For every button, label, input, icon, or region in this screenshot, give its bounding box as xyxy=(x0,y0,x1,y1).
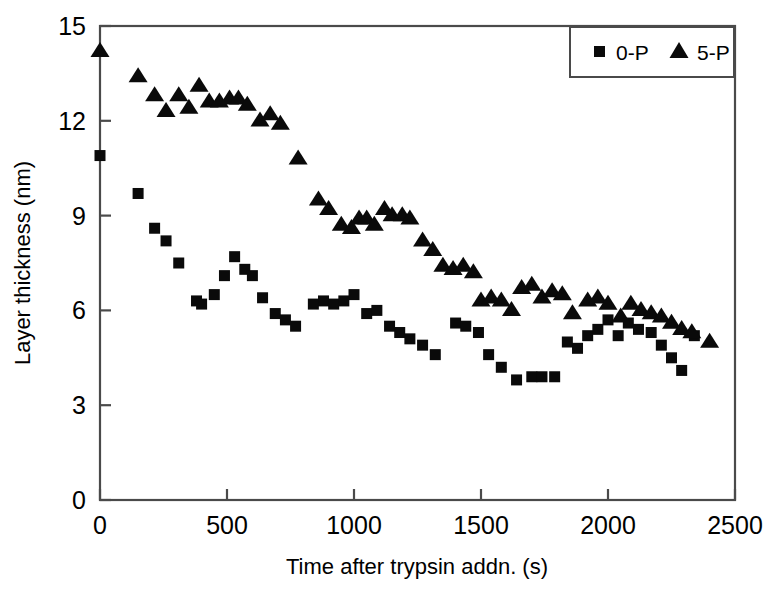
data-point-0-P-47 xyxy=(666,352,677,363)
data-point-5-P-6 xyxy=(190,77,209,92)
data-point-0-P-14 xyxy=(280,314,291,325)
data-point-0-P-1 xyxy=(133,188,144,199)
data-point-0-P-34 xyxy=(526,371,537,382)
x-tick-label-1000: 1000 xyxy=(326,511,382,539)
scatter-chart: 03691215 05001000150020002500 Time after… xyxy=(0,0,779,594)
y-axis-ticks xyxy=(100,26,111,500)
data-point-0-P-27 xyxy=(430,349,441,360)
data-point-0-P-15 xyxy=(290,321,301,332)
data-series-0-P xyxy=(95,150,700,385)
legend-label-5-P: 5-P xyxy=(697,41,730,64)
data-point-0-P-4 xyxy=(173,258,184,269)
data-point-0-P-24 xyxy=(394,327,405,338)
data-point-5-P-54 xyxy=(700,333,719,348)
x-tick-label-0: 0 xyxy=(93,511,107,539)
plot-frame xyxy=(100,26,735,500)
y-tick-label-0: 0 xyxy=(72,486,86,514)
data-point-0-P-16 xyxy=(308,299,319,310)
data-point-0-P-18 xyxy=(328,299,339,310)
data-point-5-P-3 xyxy=(157,102,176,117)
y-axis-title: Layer thickness (nm) xyxy=(10,161,35,365)
data-point-0-P-41 xyxy=(603,314,614,325)
data-point-0-P-21 xyxy=(361,308,372,319)
legend-label-0-P: 0-P xyxy=(616,41,649,64)
y-tick-label-9: 9 xyxy=(72,202,86,230)
data-point-5-P-13 xyxy=(261,105,280,120)
data-point-0-P-45 xyxy=(646,327,657,338)
data-point-0-P-6 xyxy=(196,299,207,310)
data-point-0-P-46 xyxy=(656,340,667,351)
data-point-5-P-1 xyxy=(129,67,148,82)
data-point-0-P-0 xyxy=(95,150,106,161)
figure-container: 03691215 05001000150020002500 Time after… xyxy=(0,0,779,594)
data-point-5-P-27 xyxy=(413,232,432,247)
data-point-0-P-12 xyxy=(257,292,268,303)
data-point-0-P-13 xyxy=(270,308,281,319)
data-point-0-P-7 xyxy=(209,289,220,300)
x-tick-label-2000: 2000 xyxy=(580,511,636,539)
data-point-0-P-9 xyxy=(229,251,240,262)
y-axis-tick-labels: 03691215 xyxy=(58,12,86,514)
y-tick-label-6: 6 xyxy=(72,296,86,324)
data-point-0-P-37 xyxy=(562,337,573,348)
x-axis-ticks xyxy=(100,489,735,500)
x-tick-label-2500: 2500 xyxy=(707,511,763,539)
data-point-0-P-22 xyxy=(371,305,382,316)
data-point-5-P-0 xyxy=(91,42,110,57)
data-point-0-P-3 xyxy=(161,235,172,246)
data-point-5-P-2 xyxy=(145,86,164,101)
data-point-0-P-39 xyxy=(582,330,593,341)
data-point-5-P-4 xyxy=(169,86,188,101)
x-tick-label-1500: 1500 xyxy=(453,511,509,539)
y-tick-label-15: 15 xyxy=(58,12,86,40)
data-point-0-P-48 xyxy=(676,365,687,376)
data-point-0-P-26 xyxy=(417,340,428,351)
data-point-5-P-15 xyxy=(289,149,308,164)
data-point-0-P-30 xyxy=(473,327,484,338)
x-axis-tick-labels: 05001000150020002500 xyxy=(93,511,763,539)
x-axis-title: Time after trypsin addn. (s) xyxy=(286,554,548,579)
data-point-0-P-38 xyxy=(572,343,583,354)
data-point-0-P-11 xyxy=(247,270,258,281)
data-point-0-P-29 xyxy=(460,321,471,332)
data-point-0-P-44 xyxy=(633,324,644,335)
data-point-0-P-33 xyxy=(511,374,522,385)
data-point-0-P-28 xyxy=(450,318,461,329)
data-point-0-P-17 xyxy=(318,295,329,306)
data-point-0-P-2 xyxy=(149,223,160,234)
data-point-0-P-35 xyxy=(536,371,547,382)
data-point-0-P-23 xyxy=(384,321,395,332)
legend-marker-square-icon xyxy=(594,46,605,57)
data-point-0-P-31 xyxy=(483,349,494,360)
data-point-5-P-16 xyxy=(309,191,328,206)
chart-legend: 0-P 5-P xyxy=(570,27,734,77)
y-tick-label-3: 3 xyxy=(72,391,86,419)
data-point-0-P-20 xyxy=(349,289,360,300)
data-point-0-P-42 xyxy=(613,330,624,341)
data-point-0-P-25 xyxy=(404,333,415,344)
data-point-0-P-32 xyxy=(496,362,507,373)
data-point-0-P-19 xyxy=(338,295,349,306)
data-series-5-P xyxy=(91,42,720,348)
data-point-0-P-8 xyxy=(219,270,230,281)
x-tick-label-500: 500 xyxy=(206,511,248,539)
data-point-0-P-40 xyxy=(592,324,603,335)
y-tick-label-12: 12 xyxy=(58,107,86,135)
data-point-5-P-38 xyxy=(522,276,541,291)
data-point-0-P-36 xyxy=(549,371,560,382)
